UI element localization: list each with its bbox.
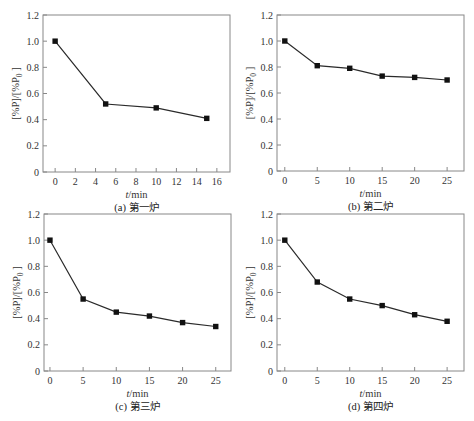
y-tick-label: 0.2 [27, 140, 40, 151]
x-tick-label: 6 [113, 176, 118, 187]
square-marker-icon [103, 101, 108, 106]
panel-caption: (d) 第四炉 [348, 400, 393, 413]
x-axis-title: t/min [359, 188, 382, 199]
y-tick-label: 1.2 [261, 209, 274, 220]
y-tick-label: 0.8 [28, 261, 41, 272]
square-marker-icon [444, 77, 449, 82]
plot-frame [277, 15, 464, 171]
square-marker-icon [282, 237, 287, 242]
y-tick-label: 0.8 [261, 261, 274, 272]
square-marker-icon [315, 63, 320, 68]
chart-panel-d: 00.20.40.60.81.01.20510152025t/min(d) 第四… [237, 210, 474, 420]
x-tick-label: 8 [133, 176, 138, 187]
square-marker-icon [204, 116, 209, 121]
y-tick-label: 0.2 [261, 339, 274, 350]
y-tick-label: 0.6 [28, 287, 41, 298]
y-tick-label: 1.0 [261, 235, 274, 246]
line-chart-a: 00.20.40.60.81.01.20246810121416t/min(a)… [0, 0, 237, 210]
data-line [55, 41, 207, 118]
square-marker-icon [47, 237, 52, 242]
line-chart-b: 00.20.40.60.81.01.20510152025t/min(b) 第二… [237, 0, 474, 210]
y-axis-title: [%P]/[%P0 ] [244, 67, 258, 119]
plot-frame [43, 15, 230, 172]
y-tick-label: 1.0 [261, 36, 274, 47]
x-axis-title: t/min [125, 189, 148, 200]
y-tick-label: 0.8 [261, 62, 274, 73]
x-tick-label: 0 [282, 175, 287, 186]
x-tick-label: 10 [345, 175, 355, 186]
y-axis-title: [%P]/[%P0 ] [244, 266, 258, 318]
x-tick-label: 14 [192, 176, 202, 187]
square-marker-icon [315, 279, 320, 284]
x-tick-label: 2 [73, 176, 78, 187]
line-chart-d: 00.20.40.60.81.01.20510152025t/min(d) 第四… [237, 210, 474, 421]
square-marker-icon [80, 296, 85, 301]
x-tick-label: 10 [151, 176, 161, 187]
y-axis-title: [%P]/[%P0 ] [10, 67, 24, 119]
y-axis-title: [%P]/[%P0 ] [11, 266, 25, 318]
line-chart-c: 00.20.40.60.81.01.20510152025t/min(c) 第三… [0, 210, 237, 421]
x-axis-title: t/min [359, 388, 382, 399]
data-line [285, 41, 447, 80]
chart-panel-b: 00.20.40.60.81.01.20510152025t/min(b) 第二… [237, 0, 474, 210]
x-tick-label: 15 [377, 175, 387, 186]
square-marker-icon [282, 38, 287, 43]
square-marker-icon [412, 312, 417, 317]
x-tick-label: 0 [47, 375, 52, 386]
x-tick-label: 20 [410, 175, 420, 186]
x-tick-label: 10 [345, 375, 355, 386]
x-tick-label: 0 [53, 176, 58, 187]
y-tick-label: 0.2 [261, 140, 274, 151]
square-marker-icon [347, 296, 352, 301]
x-tick-label: 15 [144, 375, 154, 386]
x-tick-label: 20 [178, 375, 188, 386]
data-line [50, 240, 216, 326]
data-line [285, 240, 447, 321]
x-tick-label: 25 [442, 375, 452, 386]
x-tick-label: 12 [171, 176, 181, 187]
square-marker-icon [114, 309, 119, 314]
square-marker-icon [444, 319, 449, 324]
y-tick-label: 1.2 [261, 10, 274, 21]
y-tick-label: 0 [268, 366, 273, 377]
y-tick-label: 1.0 [27, 36, 40, 47]
square-marker-icon [412, 75, 417, 80]
y-tick-label: 0.4 [27, 114, 40, 125]
x-tick-label: 15 [377, 375, 387, 386]
square-marker-icon [180, 320, 185, 325]
y-tick-label: 1.2 [28, 209, 41, 220]
chart-panel-a: 00.20.40.60.81.01.20246810121416t/min(a)… [0, 0, 237, 210]
panel-caption: (c) 第三炉 [115, 400, 159, 413]
square-marker-icon [379, 303, 384, 308]
y-tick-label: 0.6 [261, 88, 274, 99]
square-marker-icon [213, 324, 218, 329]
square-marker-icon [147, 313, 152, 318]
square-marker-icon [347, 66, 352, 71]
x-tick-label: 5 [315, 175, 320, 186]
y-tick-label: 1.0 [28, 235, 41, 246]
x-tick-label: 25 [211, 375, 221, 386]
y-tick-label: 0.4 [261, 114, 274, 125]
plot-frame [44, 214, 231, 371]
y-tick-label: 0.6 [27, 88, 40, 99]
y-tick-label: 0 [35, 366, 40, 377]
square-marker-icon [52, 38, 57, 43]
x-tick-label: 16 [212, 176, 222, 187]
square-marker-icon [154, 105, 159, 110]
plot-frame [277, 214, 464, 371]
square-marker-icon [379, 73, 384, 78]
y-tick-label: 0.2 [28, 339, 41, 350]
y-tick-label: 1.2 [27, 10, 40, 21]
y-tick-label: 0.8 [27, 62, 40, 73]
x-tick-label: 20 [410, 375, 420, 386]
x-tick-label: 25 [442, 175, 452, 186]
x-tick-label: 5 [315, 375, 320, 386]
x-axis-title: t/min [126, 388, 149, 399]
x-tick-label: 10 [111, 375, 121, 386]
chart-panel-c: 00.20.40.60.81.01.20510152025t/min(c) 第三… [0, 210, 237, 420]
y-tick-label: 0 [34, 167, 39, 178]
y-tick-label: 0.4 [261, 313, 274, 324]
x-tick-label: 5 [81, 375, 86, 386]
x-tick-label: 4 [93, 176, 98, 187]
x-tick-label: 0 [282, 375, 287, 386]
